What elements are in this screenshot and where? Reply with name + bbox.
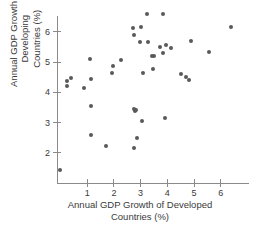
x-tick-label: 3: [138, 189, 143, 198]
data-point: [163, 116, 167, 120]
data-point: [119, 58, 123, 62]
data-point: [88, 57, 92, 61]
y-tick-label: 2: [45, 148, 50, 157]
data-point: [65, 79, 69, 83]
data-point: [89, 77, 93, 81]
data-point: [164, 43, 168, 47]
x-tick-label: 4: [165, 189, 170, 198]
x-tick-label: 5: [191, 189, 196, 198]
data-point: [132, 146, 136, 150]
data-point: [179, 72, 183, 76]
y-tick-label: 3: [45, 118, 50, 127]
data-point: [141, 71, 145, 75]
data-point: [111, 64, 115, 68]
data-point: [189, 39, 193, 43]
x-tick-label: 1: [85, 189, 90, 198]
x-tick-label: 6: [218, 189, 223, 198]
y-axis-title-text: Annual GDP Growth of Developing Countrie…: [8, 0, 43, 109]
plot-data-area: [58, 16, 248, 183]
scatter-plot-figure: 23456 123456 Annual GDP Growth of Develo…: [0, 0, 256, 239]
data-point: [145, 12, 149, 16]
data-point: [104, 144, 108, 148]
x-tick-label: 2: [111, 189, 116, 198]
data-point: [65, 84, 69, 88]
data-point: [82, 86, 86, 90]
data-point: [161, 12, 165, 16]
data-point: [152, 54, 156, 58]
data-point: [58, 168, 62, 172]
data-point: [89, 104, 93, 108]
data-point: [138, 40, 142, 44]
y-axis-title: Annual GDP Growth of Developing Countrie…: [0, 0, 54, 109]
data-point: [89, 133, 93, 137]
x-axis-title: Annual GDP Growth of Developed Countries…: [40, 199, 240, 223]
data-point: [131, 26, 135, 30]
data-point: [140, 119, 144, 123]
data-point: [132, 33, 136, 37]
data-point: [146, 40, 150, 44]
